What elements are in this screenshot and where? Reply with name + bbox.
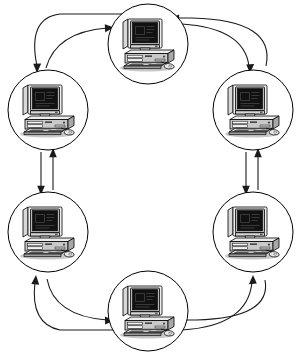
node-top[interactable] (108, 4, 188, 84)
ring-network-diagram (0, 0, 302, 354)
node-right-upper[interactable] (213, 70, 293, 150)
node-left-upper[interactable] (8, 70, 88, 150)
node-left-lower[interactable] (8, 192, 88, 272)
link-bottom-to-left-lower (31, 275, 114, 330)
link-right-lower-to-bottom (174, 275, 266, 330)
network-diagram-canvas (0, 0, 302, 354)
link-right-upper-to-lower (242, 148, 262, 195)
node-bottom[interactable] (108, 271, 188, 351)
link-left-lower-to-upper (37, 148, 57, 195)
node-right-lower[interactable] (213, 192, 293, 272)
